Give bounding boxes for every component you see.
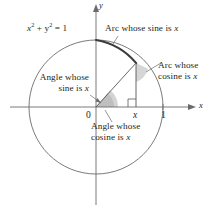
right-angle-marker-icon — [128, 99, 136, 107]
unit-tick-label: 1 — [161, 110, 166, 120]
origin-tick-label: 0 — [86, 110, 91, 120]
circle-equation-label: x2 + y2 = 1 — [27, 23, 67, 33]
y-axis-label: y — [99, 0, 103, 10]
arc-whose-sine-is-x-label: Arc whose sine is x — [105, 23, 178, 33]
x-tick-label: x — [133, 110, 137, 120]
angle-whose-cosine-is-x-label: Angle whose cosine is x — [91, 121, 140, 143]
x-axis-label: x — [199, 100, 203, 110]
arc-whose-cosine-is-x-label: Arc whose cosine is x — [158, 60, 198, 82]
angle-whose-sine-is-x-label: Angle whose sine is x — [29, 72, 89, 94]
arc-whose-cosine-is-x-shaded-wedge — [136, 63, 148, 82]
x-axis-arrow-icon — [188, 104, 196, 110]
